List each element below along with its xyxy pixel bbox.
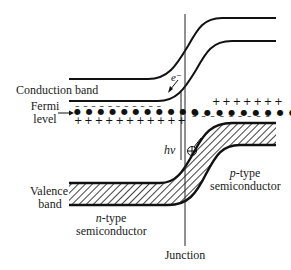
band-diagram: – – – – – – – – – – – ● ● ● ● ● ● ● ● ● … bbox=[0, 0, 291, 270]
photon-label: hν bbox=[164, 144, 175, 157]
electron-label: e⁻ bbox=[171, 71, 182, 84]
junction-label: Junction bbox=[160, 249, 210, 262]
valence-band-label-line2: band bbox=[36, 198, 64, 211]
n-type-suffix: -type bbox=[102, 211, 127, 225]
p-side-acceptor-ions-row: – – – – – – – – – bbox=[192, 111, 271, 121]
conduction-band-upper-edge bbox=[69, 18, 276, 79]
n-side-donor-ions-row: + + + + + + + + + + + bbox=[74, 115, 185, 126]
p-side-holes-row: + + + + + + + bbox=[212, 96, 282, 107]
fermi-level-label-line2: level bbox=[30, 113, 60, 126]
p-type-semiconductor-label: semiconductor bbox=[210, 180, 280, 193]
conduction-band-label: Conduction band bbox=[16, 84, 98, 97]
n-type-semiconductor-label: semiconductor bbox=[76, 225, 146, 238]
p-type-suffix: -type bbox=[236, 166, 261, 180]
